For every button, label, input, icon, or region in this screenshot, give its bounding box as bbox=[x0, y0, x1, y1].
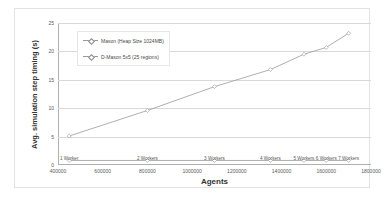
y-axis-tick-label: 10 bbox=[48, 106, 54, 111]
worker-annotation: 4 Workers bbox=[260, 156, 281, 161]
x-axis-title: Agents bbox=[58, 177, 371, 186]
worker-annotation: 7 Workers bbox=[338, 156, 359, 161]
x-axis-tick-label: 1200000 bbox=[227, 169, 246, 174]
y-axis-tick-label: 0 bbox=[51, 163, 54, 168]
worker-annotation: 1 Worker bbox=[60, 156, 79, 161]
legend-label: D-Mason 5x5 (25 regions) bbox=[101, 54, 159, 60]
x-axis-tick-label: 600000 bbox=[94, 169, 111, 174]
worker-annotation: 2 Workers bbox=[137, 156, 158, 161]
x-axis-tick-label: 400000 bbox=[50, 169, 67, 174]
data-point-marker bbox=[268, 68, 272, 72]
y-axis-title: Avg. simulation step timing (s) bbox=[28, 23, 40, 165]
chart-container: Avg. simulation step timing (s) 05101520… bbox=[14, 8, 370, 188]
data-point-marker bbox=[67, 134, 71, 138]
chart-legend: Mason (Heap Size 1024MB) D-Mason 5x5 (25… bbox=[77, 31, 170, 66]
legend-label: Mason (Heap Size 1024MB) bbox=[101, 38, 164, 44]
legend-item-mason: Mason (Heap Size 1024MB) bbox=[83, 35, 164, 46]
worker-annotation: 3 Workers bbox=[204, 156, 225, 161]
x-axis-tick-label: 1600000 bbox=[317, 169, 336, 174]
x-axis-tick-label: 800000 bbox=[139, 169, 156, 174]
data-point-marker bbox=[347, 31, 351, 35]
data-point-marker bbox=[302, 52, 306, 56]
legend-item-dmason: D-Mason 5x5 (25 regions) bbox=[83, 51, 164, 62]
data-point-marker bbox=[213, 85, 217, 89]
y-axis-tick-label: 25 bbox=[48, 21, 54, 26]
y-axis-tick-label: 20 bbox=[48, 49, 54, 54]
worker-annotation: 6 Workers bbox=[316, 156, 337, 161]
legend-marker-icon bbox=[83, 37, 98, 44]
y-axis-tick-label: 15 bbox=[48, 77, 54, 82]
legend-marker-icon bbox=[83, 53, 98, 60]
worker-annotation: 5 Workers bbox=[293, 156, 314, 161]
data-point-marker bbox=[324, 45, 328, 49]
y-axis-tick-label: 5 bbox=[51, 134, 54, 139]
x-axis-tick-label: 1400000 bbox=[272, 169, 291, 174]
data-point-marker bbox=[145, 108, 149, 112]
x-axis-tick-label: 1800000 bbox=[361, 169, 380, 174]
x-axis-tick-label: 1000000 bbox=[182, 169, 201, 174]
